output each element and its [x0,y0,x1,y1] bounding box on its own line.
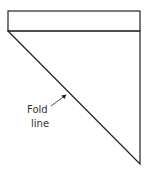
fold-diagram: Fold line [0,0,147,174]
fold-line-arrow [51,95,66,106]
folded-triangle [8,31,140,164]
fold-label-line2: line [31,118,49,129]
fold-label-line1: Fold [27,104,48,115]
top-strip [8,11,140,31]
